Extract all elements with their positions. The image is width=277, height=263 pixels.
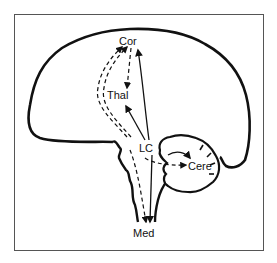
label-thalamus: Thal (107, 89, 128, 101)
label-cerebellum: Cere (188, 160, 212, 172)
brain-diagram: Cor Thal LC Cere Med (0, 0, 277, 263)
label-medulla: Med (133, 227, 154, 239)
label-locus-coeruleus: LC (139, 142, 153, 154)
brainstem-right (155, 181, 167, 222)
brainstem-left (113, 142, 138, 222)
label-cortex: Cor (119, 35, 137, 47)
